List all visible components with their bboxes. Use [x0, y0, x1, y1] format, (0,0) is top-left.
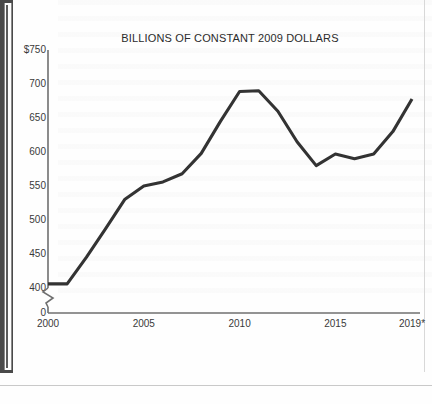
x-axis-tick-label: 2019* [399, 318, 425, 329]
scanned-page: BILLIONS OF CONSTANT 2009 DOLLARS $75070… [0, 0, 432, 404]
line-chart-plot [0, 0, 432, 404]
x-axis-tick-label: 2010 [228, 318, 250, 329]
x-axis-tick-label: 2000 [37, 318, 59, 329]
data-series-line [48, 91, 412, 284]
x-axis-tick-label: 2005 [133, 318, 155, 329]
x-axis-tick-label: 2015 [324, 318, 346, 329]
y-axis-break-zigzag [43, 288, 53, 307]
